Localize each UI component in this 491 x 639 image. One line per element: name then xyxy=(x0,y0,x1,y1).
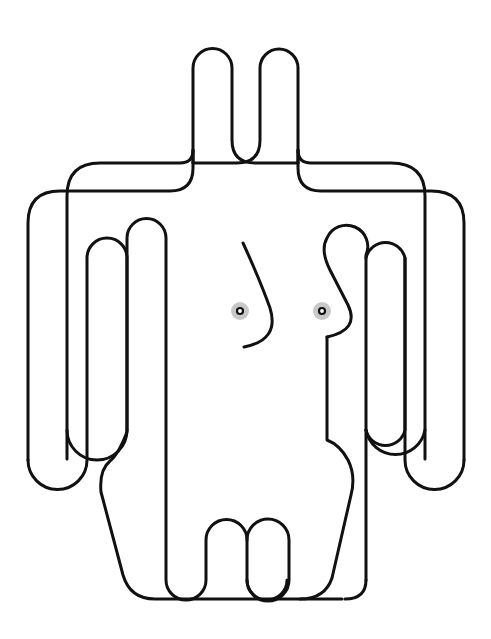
head-right-loop xyxy=(193,49,298,163)
left-breast-curve xyxy=(243,243,272,347)
line-art-figure xyxy=(0,0,491,639)
right-inner-vertical xyxy=(324,225,368,580)
left-shoulder-lower xyxy=(28,150,193,460)
left-hip xyxy=(101,432,342,599)
left-inner-arm xyxy=(67,430,127,460)
right-body-line xyxy=(345,580,366,599)
head-left-loop xyxy=(193,49,298,164)
right-outer-arm xyxy=(405,258,464,489)
right-nipple xyxy=(313,302,331,320)
right-finger xyxy=(366,242,405,445)
left-hand-loop xyxy=(127,219,287,600)
left-nipple xyxy=(231,302,249,320)
right-hand-loop xyxy=(300,337,353,599)
right-leg-loop xyxy=(247,519,289,601)
